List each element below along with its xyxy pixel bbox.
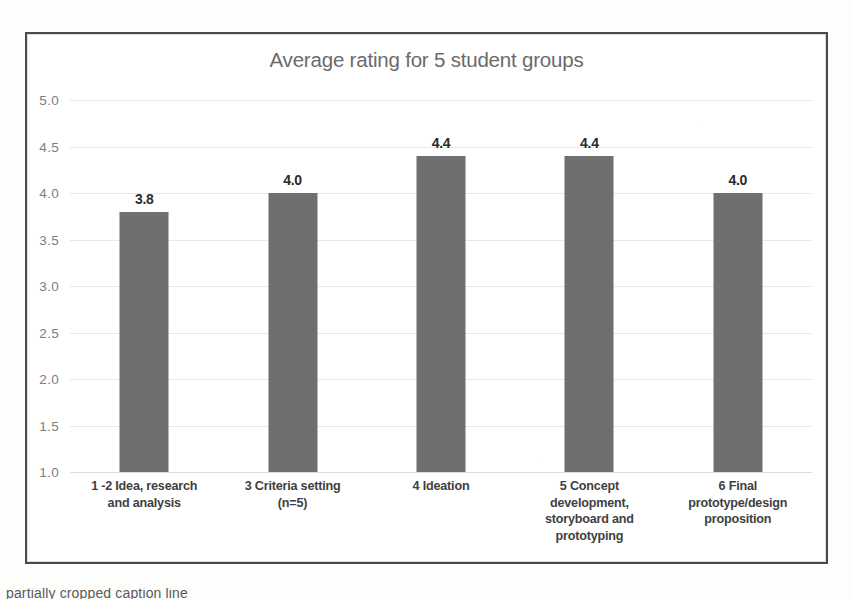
x-axis-label: 4 Ideation <box>367 478 515 495</box>
page-caption-cropped: partially cropped caption line <box>0 588 852 599</box>
x-axis-label-line: (n=5) <box>218 495 366 512</box>
bar-slot: 4.0 <box>664 100 812 472</box>
bar-slot: 4.4 <box>367 100 515 472</box>
x-axis-tick-labels: 1 -2 Idea, researchand analysis3 Criteri… <box>70 478 812 578</box>
x-axis-label-line: 6 Final <box>664 478 812 495</box>
x-axis-label: 6 Finalprototype/designproposition <box>664 478 812 528</box>
y-tick-label: 2.0 <box>39 372 59 387</box>
bar[interactable] <box>268 193 317 472</box>
x-axis-label-line: development, <box>515 495 663 512</box>
chart-title: Average rating for 5 student groups <box>27 48 826 72</box>
y-tick-label: 1.5 <box>39 418 59 433</box>
x-axis-label-line: prototype/design <box>664 495 812 512</box>
gridline-1.0 <box>70 472 812 473</box>
x-axis-label: 1 -2 Idea, researchand analysis <box>70 478 218 511</box>
x-axis-label: 5 Conceptdevelopment,storyboard andproto… <box>515 478 663 544</box>
y-tick-label: 3.5 <box>39 232 59 247</box>
chart-frame: Average rating for 5 student groups 5.04… <box>25 32 828 564</box>
bar-slot: 3.8 <box>70 100 218 472</box>
x-axis-label-line: proposition <box>664 511 812 528</box>
bar[interactable] <box>565 156 614 472</box>
bar-value-label: 4.0 <box>283 172 302 188</box>
bar-value-label: 4.0 <box>729 172 748 188</box>
bar[interactable] <box>713 193 762 472</box>
x-axis-label-line: 5 Concept <box>515 478 663 495</box>
y-tick-label: 3.0 <box>39 279 59 294</box>
bar-value-label: 4.4 <box>432 135 451 151</box>
x-axis-label-line: storyboard and <box>515 511 663 528</box>
bar[interactable] <box>416 156 465 472</box>
x-axis-label-line: and analysis <box>70 495 218 512</box>
caption-text: partially cropped caption line <box>0 588 852 599</box>
bar-series: 3.84.04.44.44.0 <box>70 100 812 472</box>
x-axis-label: 3 Criteria setting(n=5) <box>218 478 366 511</box>
bar-value-label: 4.4 <box>580 135 599 151</box>
x-axis-label-line: 4 Ideation <box>367 478 515 495</box>
y-tick-label: 2.5 <box>39 325 59 340</box>
bar-slot: 4.4 <box>515 100 663 472</box>
y-tick-label: 5.0 <box>39 93 59 108</box>
x-axis-label-line: 1 -2 Idea, research <box>70 478 218 495</box>
y-tick-label: 4.5 <box>39 139 59 154</box>
plot-area: 5.04.54.03.53.02.52.01.51.0 3.84.04.44.4… <box>70 100 812 472</box>
bar-value-label: 3.8 <box>135 191 154 207</box>
bar-slot: 4.0 <box>218 100 366 472</box>
bar[interactable] <box>120 212 169 472</box>
x-axis-label-line: 3 Criteria setting <box>218 478 366 495</box>
scanned-page: Average rating for 5 student groups 5.04… <box>0 0 852 599</box>
y-tick-label: 1.0 <box>39 465 59 480</box>
x-axis-label-line: prototyping <box>515 528 663 545</box>
y-tick-label: 4.0 <box>39 186 59 201</box>
